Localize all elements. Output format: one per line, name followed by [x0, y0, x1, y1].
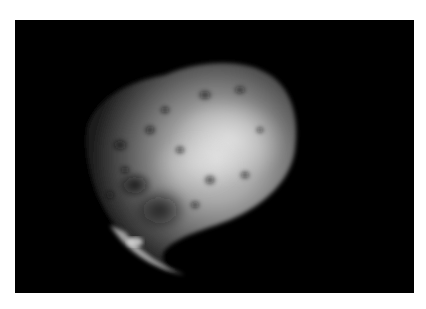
asteroid-photo [15, 20, 414, 293]
photo-frame [15, 20, 414, 293]
